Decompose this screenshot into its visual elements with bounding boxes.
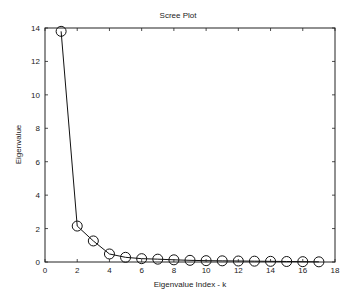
x-tick-label: 18 — [331, 266, 340, 275]
y-tick-label: 14 — [31, 24, 40, 33]
x-tick-label: 0 — [43, 266, 48, 275]
plot-area — [45, 28, 335, 262]
series-line — [61, 31, 319, 261]
y-tick-label: 4 — [36, 191, 41, 200]
y-tick-label: 10 — [31, 91, 40, 100]
x-tick-label: 4 — [107, 266, 112, 275]
x-tick-label: 10 — [202, 266, 211, 275]
y-axis-label: Eigenvalue — [14, 105, 23, 185]
y-tick-label: 6 — [36, 158, 41, 167]
x-tick-label: 6 — [139, 266, 144, 275]
x-axis-label: Eigenvalue Index - k — [45, 280, 335, 289]
y-tick-label: 8 — [36, 124, 41, 133]
x-tick-label: 2 — [75, 266, 80, 275]
x-tick-label: 8 — [172, 266, 177, 275]
scree-plot: 02468101214161802468101214 — [0, 0, 356, 301]
y-tick-label: 2 — [36, 225, 41, 234]
x-tick-label: 12 — [234, 266, 243, 275]
y-tick-label: 0 — [36, 258, 41, 267]
x-tick-label: 16 — [298, 266, 307, 275]
y-tick-label: 12 — [31, 57, 40, 66]
x-tick-label: 14 — [266, 266, 275, 275]
